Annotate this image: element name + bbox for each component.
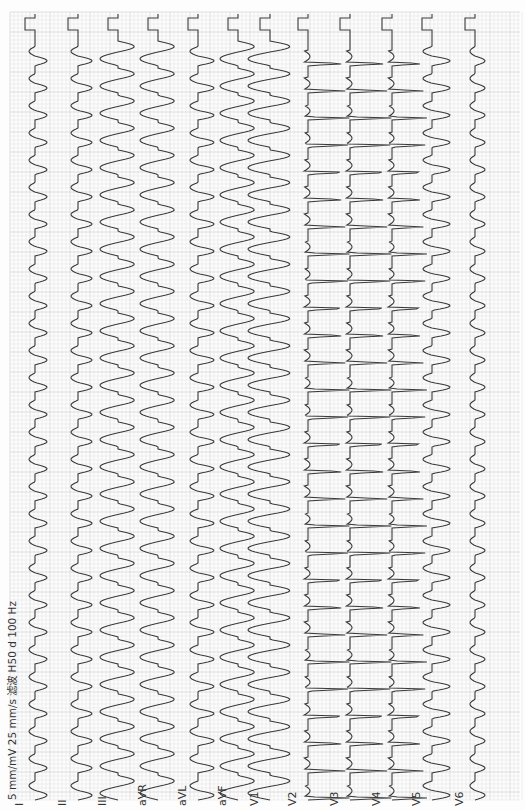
lead-label-avl: aVL: [176, 786, 189, 806]
lead-label-v5: V5: [410, 791, 423, 806]
lead-trace-v6: [465, 14, 485, 800]
lead-trace-i: [25, 14, 47, 800]
lead-trace-avl: [188, 14, 214, 800]
ecg-traces: [0, 0, 525, 810]
lead-trace-iii: [100, 14, 134, 800]
lead-label-iii: III: [96, 796, 109, 806]
lead-label-ii: II: [56, 800, 69, 807]
lead-label-v3: V3: [328, 791, 341, 806]
settings-label: 5 mm/mV 25 mm/s 滤波 H50 d 100 Hz: [4, 601, 19, 800]
lead-label-avf: aVF: [216, 785, 229, 806]
lead-trace-avr: [140, 14, 174, 800]
lead-label-v2: V2: [286, 791, 299, 806]
lead-trace-avf: [220, 14, 254, 800]
lead-trace-v5: [422, 14, 450, 800]
lead-trace-v2: [298, 14, 349, 800]
lead-label-v4: V4: [370, 791, 383, 806]
lead-label-v1: V1: [248, 791, 261, 806]
ecg-chart: 5 mm/mV 25 mm/s 滤波 H50 d 100 Hz IIIIIIaV…: [0, 0, 525, 810]
lead-trace-v4: [382, 14, 427, 800]
lead-label-avr: aVR: [136, 784, 149, 806]
lead-label-v6: V6: [453, 791, 466, 806]
lead-trace-v3: [340, 14, 391, 800]
lead-trace-ii: [68, 14, 92, 800]
lead-trace-v1: [248, 14, 290, 800]
lead-label-i: I: [13, 803, 26, 806]
